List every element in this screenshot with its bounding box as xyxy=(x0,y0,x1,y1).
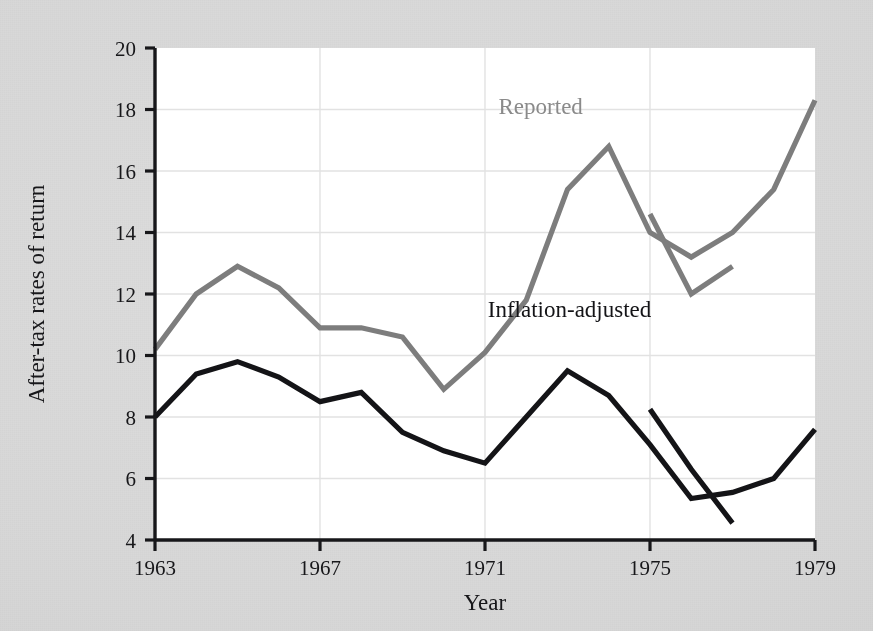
x-axis-tick-labels: 19631967197119751979 xyxy=(134,556,836,580)
x-tick-label: 1971 xyxy=(464,556,506,580)
y-tick-label: 14 xyxy=(115,221,137,245)
annotation-inflation-adjusted: Inflation-adjusted xyxy=(488,297,652,322)
x-tick-label: 1967 xyxy=(299,556,341,580)
y-tick-label: 4 xyxy=(126,529,137,553)
figure-container: 468101214161820 19631967197119751979 Rep… xyxy=(0,0,873,631)
y-axis-title: After-tax rates of return xyxy=(24,184,49,403)
x-tick-label: 1975 xyxy=(629,556,671,580)
y-tick-label: 6 xyxy=(126,467,137,491)
line-chart: 468101214161820 19631967197119751979 Rep… xyxy=(0,0,873,631)
y-tick-label: 10 xyxy=(115,344,136,368)
y-tick-label: 16 xyxy=(115,160,136,184)
x-tick-label: 1979 xyxy=(794,556,836,580)
y-axis-tick-labels: 468101214161820 xyxy=(115,37,137,553)
x-axis-title: Year xyxy=(464,590,507,615)
y-tick-label: 20 xyxy=(115,37,136,61)
y-tick-label: 18 xyxy=(115,98,136,122)
x-tick-label: 1963 xyxy=(134,556,176,580)
y-tick-label: 12 xyxy=(115,283,136,307)
y-tick-label: 8 xyxy=(126,406,137,430)
annotation-reported: Reported xyxy=(499,94,584,119)
